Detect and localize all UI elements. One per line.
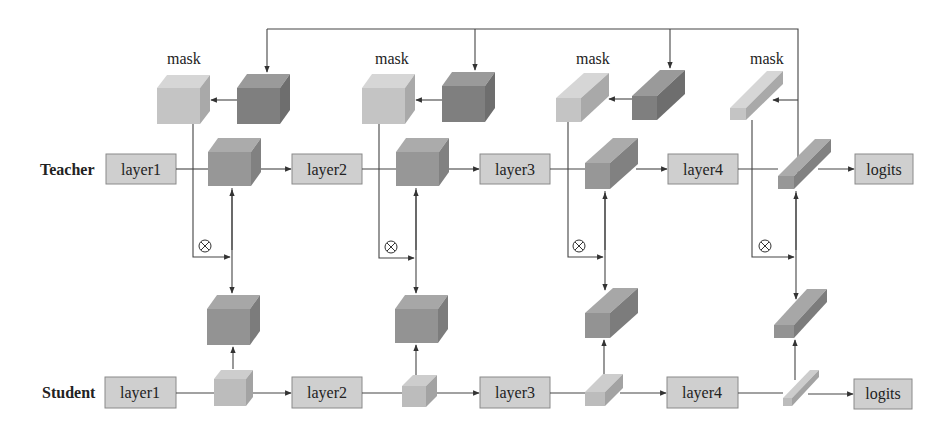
teacher-layer1-box: layer1	[106, 154, 176, 184]
teacher-label: Teacher	[40, 161, 95, 178]
student-feature-2	[402, 375, 437, 407]
distillation-diagram: mask mask mask mask	[0, 0, 952, 425]
teacher-layer1-label: layer1	[121, 161, 161, 179]
teacher-layer3-box: layer3	[480, 154, 550, 184]
student-projected-feature-2	[395, 295, 448, 343]
mask-label-4: mask	[750, 50, 784, 67]
student-projected-feature-4	[774, 289, 827, 338]
multiply-operator-2	[385, 241, 397, 253]
teacher-logits-box: logits	[855, 154, 913, 184]
student-logits-label: logits	[865, 385, 901, 403]
teacher-feature-4	[778, 139, 831, 189]
student-layer1-box: layer1	[105, 377, 176, 408]
mask-cube-light-3	[556, 73, 609, 122]
student-layer4-label: layer4	[682, 384, 722, 402]
mask-cube-light-1	[157, 75, 210, 124]
multiply-operator-4	[759, 240, 771, 252]
feedback-bus	[267, 29, 798, 175]
teacher-layer4-label: layer4	[683, 161, 723, 179]
student-feature-3	[585, 374, 623, 406]
student-projected-feature-1	[207, 295, 260, 345]
mask-cube-dark-1	[237, 74, 290, 124]
mask-label-2: mask	[375, 50, 409, 67]
student-layer4-box: layer4	[667, 377, 738, 408]
student-layer2-box: layer2	[292, 377, 362, 408]
teacher-layer2-box: layer2	[292, 154, 362, 184]
teacher-layer2-label: layer2	[307, 161, 347, 179]
student-label: Student	[42, 384, 96, 401]
student-feature-4	[783, 370, 819, 406]
student-projected-feature-3	[585, 288, 638, 338]
mask-cube-light-2	[362, 74, 415, 124]
mask-cube-light-4	[730, 71, 783, 120]
mask-label-1: mask	[167, 50, 201, 67]
mask-cube-dark-2	[442, 72, 495, 122]
teacher-feature-2	[396, 138, 449, 186]
student-layer3-box: layer3	[480, 377, 550, 408]
teacher-layer3-label: layer3	[495, 161, 535, 179]
teacher-logits-label: logits	[866, 161, 902, 179]
mask-label-3: mask	[576, 50, 610, 67]
teacher-layer4-box: layer4	[668, 154, 738, 184]
student-layer1-label: layer1	[120, 384, 160, 402]
student-layer2-label: layer2	[307, 384, 347, 402]
multiply-operator-3	[573, 240, 585, 252]
student-logits-box: logits	[854, 379, 912, 409]
teacher-feature-3	[585, 138, 638, 189]
student-layer3-label: layer3	[495, 384, 535, 402]
mask-cube-dark-3	[632, 70, 685, 120]
multiply-operator-1	[199, 240, 211, 252]
student-feature-1	[214, 370, 253, 406]
teacher-feature-1	[208, 138, 261, 186]
